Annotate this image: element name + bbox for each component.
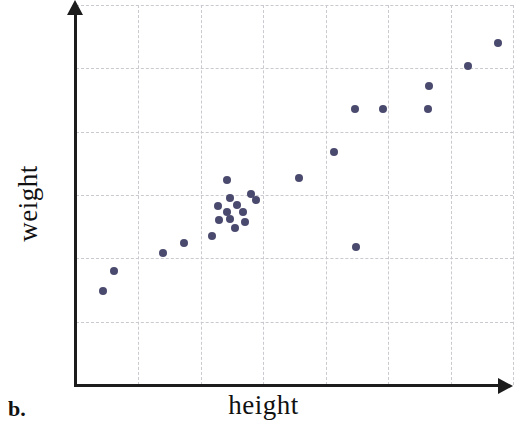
data-point bbox=[330, 148, 338, 156]
data-point bbox=[424, 105, 432, 113]
data-point bbox=[226, 194, 234, 202]
scatter-plot-figure: height weight b. bbox=[0, 0, 517, 431]
data-points-layer bbox=[0, 0, 517, 431]
data-point bbox=[215, 216, 223, 224]
data-point bbox=[494, 39, 502, 47]
y-axis-label: weight bbox=[13, 124, 44, 284]
data-point bbox=[351, 105, 359, 113]
data-point bbox=[352, 243, 360, 251]
data-point bbox=[223, 176, 231, 184]
data-point bbox=[464, 62, 472, 70]
data-point bbox=[110, 267, 118, 275]
data-point bbox=[226, 215, 234, 223]
data-point bbox=[159, 249, 167, 257]
y-axis-line bbox=[74, 12, 77, 387]
x-axis-label: height bbox=[0, 390, 517, 421]
data-point bbox=[425, 82, 433, 90]
data-point bbox=[239, 208, 247, 216]
arrow-up-icon bbox=[67, 0, 83, 15]
data-point bbox=[208, 232, 216, 240]
data-point bbox=[214, 202, 222, 210]
x-axis-line bbox=[74, 384, 501, 387]
data-point bbox=[180, 239, 188, 247]
part-label: b. bbox=[8, 396, 26, 422]
data-point bbox=[379, 105, 387, 113]
data-point bbox=[295, 174, 303, 182]
data-point bbox=[99, 287, 107, 295]
data-point bbox=[231, 224, 239, 232]
data-point bbox=[252, 196, 260, 204]
data-point bbox=[241, 218, 249, 226]
